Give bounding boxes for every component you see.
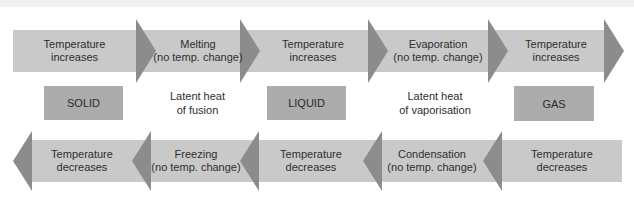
latent-line1: Latent heat	[170, 89, 225, 103]
latent-line2: of fusion	[177, 103, 219, 117]
segment-line2: (no temp. change)	[153, 51, 242, 64]
segment-gas-heating: Temperature increases	[508, 30, 604, 72]
arrowhead-left-icon	[483, 131, 502, 191]
segment-line1: Temperature	[282, 38, 344, 51]
segment-line1: Temperature	[51, 148, 113, 161]
segment-line1: Freezing	[175, 148, 218, 161]
segment-solid-heating: Temperature increases	[13, 30, 136, 72]
segment-freezing: Freezing (no temp. change)	[150, 140, 242, 182]
segment-line1: Temperature	[44, 38, 106, 51]
state-gas: GAS	[514, 86, 594, 121]
segment-line1: Temperature	[531, 148, 593, 161]
segment-line2: decreases	[57, 161, 108, 174]
top-strip	[0, 0, 634, 7]
segment-gas-cooling: Temperature decreases	[502, 140, 622, 182]
latent-line2: of vaporisation	[399, 103, 471, 117]
segment-line2: (no temp. change)	[387, 161, 476, 174]
segment-line1: Temperature	[525, 38, 587, 51]
segment-line1: Evaporation	[409, 38, 468, 51]
segment-condensation: Condensation (no temp. change)	[380, 140, 484, 182]
arrowhead-left-icon	[240, 131, 259, 191]
arrowhead-right-icon	[604, 19, 624, 83]
arrowhead-left-icon	[132, 131, 151, 191]
segment-liquid-cooling: Temperature decreases	[258, 140, 364, 182]
segment-melting: Melting (no temp. change)	[152, 30, 244, 72]
segment-line1: Melting	[180, 38, 215, 51]
segment-line2: increases	[51, 51, 98, 64]
segment-solid-cooling: Temperature decreases	[32, 140, 132, 182]
latent-heat-fusion: Latent heat of fusion	[150, 86, 245, 120]
arrowhead-right-icon	[488, 19, 508, 83]
latent-line1: Latent heat	[407, 89, 462, 103]
state-liquid: LIQUID	[267, 86, 346, 120]
arrowhead-right-icon	[368, 19, 388, 83]
arrowhead-left-icon	[13, 131, 32, 191]
segment-line2: decreases	[286, 161, 337, 174]
segment-liquid-heating: Temperature increases	[258, 30, 368, 72]
segment-line2: (no temp. change)	[151, 161, 240, 174]
segment-line1: Condensation	[398, 148, 466, 161]
segment-line2: increases	[532, 51, 579, 64]
segment-line2: decreases	[537, 161, 588, 174]
segment-line2: (no temp. change)	[393, 51, 482, 64]
state-solid: SOLID	[44, 86, 123, 120]
segment-line2: increases	[289, 51, 336, 64]
segment-line1: Temperature	[280, 148, 342, 161]
latent-heat-vaporisation: Latent heat of vaporisation	[380, 86, 490, 120]
segment-evaporation: Evaporation (no temp. change)	[386, 30, 490, 72]
